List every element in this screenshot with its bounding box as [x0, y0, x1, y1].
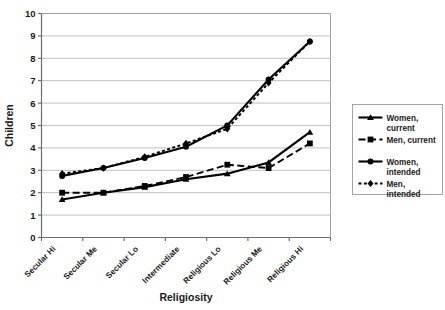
legend-label-0-line2: current — [387, 124, 415, 133]
ytick-label-9: 9 — [30, 30, 35, 41]
legend-label-2: Women, — [387, 158, 419, 167]
legend-marker-3 — [368, 180, 374, 187]
ytick-label-1: 1 — [30, 210, 36, 221]
ytick-label-8: 8 — [30, 53, 35, 64]
datapoint-1-1 — [101, 190, 107, 196]
ytick-label-5: 5 — [30, 120, 36, 131]
ytick-label-7: 7 — [30, 75, 35, 86]
legend-marker-2 — [368, 159, 374, 165]
datapoint-1-5 — [266, 165, 272, 171]
ytick-label-6: 6 — [30, 98, 35, 109]
legend-marker-1 — [368, 137, 374, 143]
datapoint-1-4 — [224, 162, 230, 168]
legend-item-0[interactable]: Women,current — [359, 114, 419, 133]
xtick-label-1: Secular Me — [62, 244, 99, 281]
datapoint-1-3 — [183, 174, 189, 180]
datapoint-1-6 — [307, 141, 313, 147]
legend-label-1: Men, current — [387, 136, 436, 145]
ytick-label-10: 10 — [25, 8, 36, 19]
xtick-label-2: Secular Lo — [104, 245, 140, 281]
legend-label-3-line2: intended — [387, 190, 421, 199]
legend-item-2[interactable]: Women,intended — [359, 158, 421, 177]
xtick-label-4: Religious Lo — [182, 245, 223, 286]
xtick-label-3: Intermediate — [141, 244, 182, 285]
xtick-label-5: Religious Me — [222, 244, 264, 286]
chart-container: 012345678910Secular HiSecular MeSecular … — [0, 0, 445, 310]
xtick-label-6: Religious Hi — [265, 245, 305, 285]
y-axis-title: Children — [3, 104, 15, 147]
religiosity-children-line-chart: 012345678910Secular HiSecular MeSecular … — [0, 0, 445, 310]
legend-label-2-line2: intended — [387, 168, 421, 177]
legend-item-3[interactable]: Men,intended — [359, 180, 421, 199]
ytick-label-4: 4 — [30, 142, 36, 153]
legend-item-1[interactable]: Men, current — [359, 136, 436, 145]
ytick-label-3: 3 — [30, 165, 35, 176]
legend-label-0: Women, — [387, 114, 419, 123]
legend-label-3: Men, — [387, 180, 406, 189]
x-axis-title: Religiosity — [159, 291, 212, 303]
ytick-label-2: 2 — [30, 187, 35, 198]
ytick-label-0: 0 — [30, 232, 35, 243]
datapoint-1-2 — [142, 183, 148, 189]
xtick-label-0: Secular Hi — [23, 245, 58, 280]
datapoint-1-0 — [59, 190, 65, 196]
